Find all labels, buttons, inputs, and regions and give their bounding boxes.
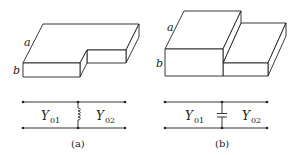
caption-b: (b) (215, 138, 229, 149)
label-Y01-a-sub: 01 (50, 116, 60, 125)
label-Y01-b-sub: 01 (194, 116, 204, 125)
waveguide-a-step-front-face (87, 50, 126, 63)
circuit-b: Y 01 Y 02 (b) (164, 101, 269, 149)
label-Y02-a-sub: 02 (105, 116, 115, 125)
dim-label-a: a (24, 36, 31, 49)
label-Y02-b: Y (242, 109, 251, 123)
caption-a: (a) (71, 138, 85, 149)
dim-label-b: b (13, 64, 20, 77)
inductor-icon (78, 102, 80, 128)
circuit-a: Y 01 Y 02 (a) (22, 101, 127, 149)
label-Y01-a: Y (41, 109, 50, 123)
label-Y02-a: Y (96, 109, 105, 123)
waveguide-b-lower-front-face (223, 63, 268, 76)
waveguide-b: a b (156, 11, 286, 76)
waveguide-b-front-face (165, 49, 223, 76)
dim-label-b: b (156, 57, 163, 70)
label-Y02-b-sub: 02 (251, 116, 261, 125)
capacitor-icon (217, 102, 227, 128)
waveguide-step-diagram: a b Y 01 Y 02 (a) (0, 0, 300, 155)
label-Y01-b: Y (185, 109, 194, 123)
waveguide-a: a b (13, 24, 139, 77)
waveguide-a-front-face (23, 63, 80, 77)
dim-label-a: a (167, 21, 174, 34)
